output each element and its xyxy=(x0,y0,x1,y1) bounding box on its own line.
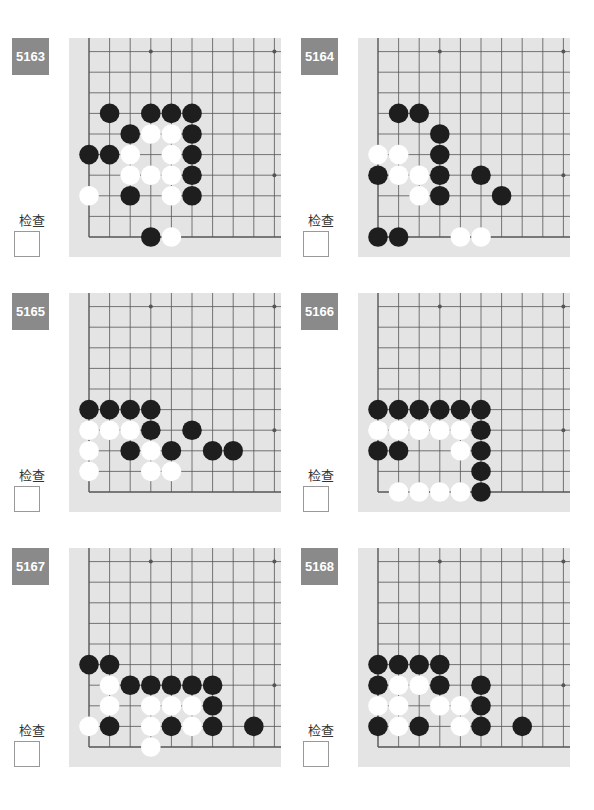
star-point xyxy=(561,428,565,432)
star-point xyxy=(272,173,276,177)
black-stone xyxy=(471,400,491,420)
white-stone xyxy=(141,441,161,461)
black-stone xyxy=(141,400,161,420)
white-stone xyxy=(79,441,99,461)
star-point xyxy=(561,173,565,177)
black-stone xyxy=(120,400,140,420)
black-stone xyxy=(389,400,409,420)
white-stone xyxy=(409,165,429,185)
white-stone xyxy=(409,420,429,440)
black-stone xyxy=(100,655,120,675)
white-stone xyxy=(389,482,409,502)
check-checkbox[interactable] xyxy=(303,486,329,512)
white-stone xyxy=(471,227,491,247)
check-checkbox[interactable] xyxy=(303,741,329,767)
black-stone xyxy=(120,124,140,144)
black-stone xyxy=(471,696,491,716)
white-stone xyxy=(389,717,409,737)
white-stone xyxy=(389,696,409,716)
black-stone xyxy=(430,145,450,165)
black-stone xyxy=(79,655,99,675)
white-stone xyxy=(162,145,182,165)
go-board xyxy=(358,293,570,512)
black-stone xyxy=(223,441,243,461)
white-stone xyxy=(430,696,450,716)
white-stone xyxy=(141,165,161,185)
black-stone xyxy=(471,420,491,440)
white-stone xyxy=(120,165,140,185)
white-stone xyxy=(389,675,409,695)
black-stone xyxy=(141,420,161,440)
black-stone xyxy=(430,186,450,206)
white-stone xyxy=(182,696,202,716)
black-stone xyxy=(409,655,429,675)
star-point xyxy=(149,560,153,564)
check-label: 检查 xyxy=(12,210,52,229)
black-stone xyxy=(409,717,429,737)
star-point xyxy=(438,50,442,54)
black-stone xyxy=(182,145,202,165)
black-stone xyxy=(120,675,140,695)
go-board xyxy=(69,38,281,257)
black-stone xyxy=(492,186,512,206)
star-point xyxy=(438,560,442,564)
black-stone xyxy=(471,462,491,482)
white-stone xyxy=(409,675,429,695)
check-checkbox[interactable] xyxy=(14,741,40,767)
check-label: 检查 xyxy=(301,210,341,229)
go-board xyxy=(358,548,570,767)
white-stone xyxy=(162,124,182,144)
black-stone xyxy=(203,675,223,695)
white-stone xyxy=(120,420,140,440)
star-point xyxy=(561,560,565,564)
white-stone xyxy=(368,696,388,716)
black-stone xyxy=(430,165,450,185)
white-stone xyxy=(368,145,388,165)
check-label: 检查 xyxy=(12,465,52,484)
black-stone xyxy=(430,124,450,144)
white-stone xyxy=(79,420,99,440)
white-stone xyxy=(409,186,429,206)
star-point xyxy=(438,305,442,309)
white-stone xyxy=(79,186,99,206)
white-stone xyxy=(162,165,182,185)
black-stone xyxy=(389,655,409,675)
white-stone xyxy=(451,482,471,502)
check-checkbox[interactable] xyxy=(14,486,40,512)
star-point xyxy=(272,560,276,564)
black-stone xyxy=(430,400,450,420)
white-stone xyxy=(162,227,182,247)
black-stone xyxy=(203,696,223,716)
white-stone xyxy=(409,482,429,502)
black-stone xyxy=(162,675,182,695)
star-point xyxy=(561,683,565,687)
black-stone xyxy=(100,717,120,737)
white-stone xyxy=(141,124,161,144)
black-stone xyxy=(368,655,388,675)
problem-5168: 5168 检查 xyxy=(301,548,591,773)
black-stone xyxy=(203,717,223,737)
white-stone xyxy=(141,717,161,737)
black-stone xyxy=(203,441,223,461)
black-stone xyxy=(79,400,99,420)
black-stone xyxy=(368,165,388,185)
black-stone xyxy=(141,104,161,124)
black-stone xyxy=(430,655,450,675)
problem-5166: 5166 检查 xyxy=(301,293,591,518)
check-checkbox[interactable] xyxy=(303,231,329,257)
black-stone xyxy=(100,104,120,124)
black-stone xyxy=(451,400,471,420)
black-stone xyxy=(471,441,491,461)
black-stone xyxy=(368,227,388,247)
black-stone xyxy=(182,420,202,440)
check-checkbox[interactable] xyxy=(14,231,40,257)
star-point xyxy=(272,50,276,54)
white-stone xyxy=(162,462,182,482)
white-stone xyxy=(451,441,471,461)
black-stone xyxy=(368,400,388,420)
problem-number-badge: 5167 xyxy=(12,548,49,585)
white-stone xyxy=(430,482,450,502)
white-stone xyxy=(182,717,202,737)
black-stone xyxy=(471,165,491,185)
white-stone xyxy=(120,145,140,165)
